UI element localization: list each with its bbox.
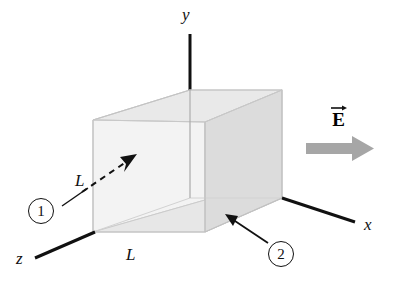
callout-number-1: 1 (28, 198, 54, 224)
edge-length-label-bottom: L (126, 246, 135, 263)
electric-field-label-group: E (330, 102, 347, 129)
callout-2-pointer (225, 214, 268, 243)
field-arrow-shape (306, 136, 374, 161)
edge-length-label-left: L (75, 172, 84, 189)
cube-body (93, 90, 282, 232)
z-axis-label: z (16, 250, 23, 267)
y-axis-label: y (182, 6, 190, 23)
z-axis-line (35, 232, 95, 258)
x-axis-line (282, 198, 355, 222)
electric-field-label: E (332, 110, 345, 129)
x-axis-label: x (364, 216, 372, 233)
callout-number-1-text: 1 (37, 203, 45, 220)
callout-number-2: 2 (268, 241, 294, 267)
electric-field-arrow (306, 136, 374, 161)
callout-number-2-text: 2 (277, 246, 285, 263)
physics-figure-cube-in-field (0, 0, 395, 282)
callout-2-arrow-shaft (232, 219, 268, 243)
